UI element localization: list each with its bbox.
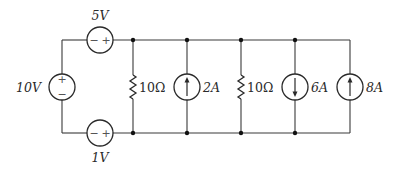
current-label-2a: 2A <box>202 80 220 95</box>
resistor-label-r2: 10Ω <box>247 80 273 95</box>
current-label-8a: 8A <box>366 80 383 95</box>
resistor-label-r1: 10Ω <box>139 80 165 95</box>
current-source-2a: 2A <box>174 74 220 100</box>
current-source-6a: 6A <box>282 74 328 100</box>
circuit-diagram: + − 10V − + 5V − + 1V 10Ω 2A 10Ω 6A <box>0 0 403 170</box>
resistor-r1: 10Ω <box>130 75 165 99</box>
voltage-source-1v: − + 1V <box>87 120 113 165</box>
current-label-6a: 6A <box>311 80 328 95</box>
resistor-zigzag-icon <box>130 75 136 99</box>
plus-sign: + <box>101 34 110 47</box>
voltage-source-5v: − + 5V <box>87 8 113 53</box>
minus-sign: − <box>89 34 98 47</box>
junction-dot <box>131 38 135 42</box>
voltage-label-10v: 10V <box>16 80 43 95</box>
minus-sign: − <box>57 88 66 101</box>
junction-dot <box>131 131 135 135</box>
resistor-zigzag-icon <box>238 75 244 99</box>
junction-dot <box>185 131 189 135</box>
resistor-r2: 10Ω <box>238 75 273 99</box>
junction-dot <box>239 131 243 135</box>
junction-dot <box>239 38 243 42</box>
junction-dot <box>185 38 189 42</box>
voltage-source-10v: + − 10V <box>16 73 75 101</box>
voltage-label-1v: 1V <box>92 150 111 165</box>
voltage-label-5v: 5V <box>92 8 111 23</box>
plus-sign: + <box>57 73 66 86</box>
junction-dot <box>293 38 297 42</box>
minus-sign: − <box>89 127 98 140</box>
current-source-8a: 8A <box>337 74 383 100</box>
junction-dot <box>293 131 297 135</box>
plus-sign: + <box>101 127 110 140</box>
